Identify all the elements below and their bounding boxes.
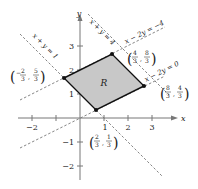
svg-text:): ) bbox=[151, 51, 156, 67]
svg-text:,: , bbox=[28, 73, 30, 80]
svg-text:(: ( bbox=[160, 86, 165, 102]
svg-text:(: ( bbox=[89, 135, 94, 151]
svg-text:8: 8 bbox=[166, 84, 170, 91]
svg-text:3: 3 bbox=[145, 57, 149, 64]
vertex-point bbox=[142, 84, 146, 88]
vertex-point bbox=[62, 76, 66, 80]
svg-text:3: 3 bbox=[107, 141, 111, 148]
svg-text:3: 3 bbox=[133, 57, 137, 64]
svg-text:(: ( bbox=[127, 51, 132, 67]
vertex-label-4-3-8-3: ( 4 3 , 8 3 ) bbox=[127, 49, 156, 67]
svg-text:,: , bbox=[173, 90, 175, 97]
line-label-x-plus-y-eq-4: x + y = 4 bbox=[88, 18, 117, 47]
y-tick-label: 3 bbox=[69, 42, 74, 51]
svg-text:): ) bbox=[184, 86, 189, 102]
svg-text:(: ( bbox=[10, 69, 15, 85]
svg-text:1: 1 bbox=[107, 133, 111, 140]
x-axis-label: x bbox=[181, 114, 186, 123]
svg-text:3: 3 bbox=[178, 92, 182, 99]
svg-text:): ) bbox=[113, 135, 118, 151]
svg-text:8: 8 bbox=[145, 49, 149, 56]
vertex-point bbox=[94, 108, 98, 112]
svg-text:): ) bbox=[40, 69, 45, 85]
x-tick-label: 3 bbox=[149, 123, 154, 132]
svg-text:3: 3 bbox=[95, 141, 99, 148]
line-label-x-plus-y-eq-1: x + y = 1 bbox=[31, 32, 60, 61]
x-axis-arrow-icon bbox=[171, 116, 178, 121]
y-tick-label: −1 bbox=[62, 138, 74, 147]
vertex-point bbox=[110, 52, 114, 56]
svg-text:,: , bbox=[102, 139, 104, 146]
line-label-x-minus-2y-eq-neg4: x − 2y = −4 bbox=[123, 19, 165, 46]
svg-text:4: 4 bbox=[178, 84, 182, 91]
x-tick-label: 2 bbox=[125, 123, 130, 132]
svg-text:3: 3 bbox=[34, 75, 38, 82]
region-label: R bbox=[100, 78, 108, 88]
svg-text:2: 2 bbox=[21, 67, 25, 74]
vertex-label-2-3-1-3: ( 2 3 , 1 3 ) bbox=[89, 133, 118, 151]
svg-text:3: 3 bbox=[21, 75, 25, 82]
svg-text:5: 5 bbox=[34, 67, 38, 74]
x-tick-label: −2 bbox=[26, 123, 38, 132]
vertex-label-8-3-4-3: ( 8 3 , 4 3 ) bbox=[160, 84, 189, 102]
svg-text:2: 2 bbox=[95, 133, 99, 140]
y-tick-label: −2 bbox=[62, 162, 74, 171]
feasible-region-graph: −2 1 2 3 3 2 1 −1 −2 x y R x + y = 1 x +… bbox=[0, 0, 198, 189]
y-tick-label: 1 bbox=[69, 90, 74, 99]
svg-text:4: 4 bbox=[133, 49, 137, 56]
vertex-label-neg2-3-5-3: ( − 2 3 , 5 3 ) bbox=[10, 67, 45, 85]
y-axis-label: y bbox=[76, 9, 82, 18]
x-tick-label: 1 bbox=[102, 123, 107, 132]
svg-text:3: 3 bbox=[166, 92, 170, 99]
svg-text:,: , bbox=[140, 55, 142, 62]
